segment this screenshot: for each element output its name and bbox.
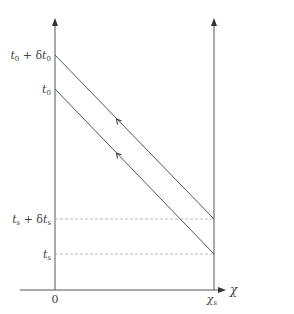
label-t0-plus-delta: t0 + δt0 (10, 49, 51, 63)
label-chi-s: χs (206, 293, 218, 307)
label-ts-plus-delta: ts + δts (12, 213, 51, 227)
label-origin: 0 (52, 293, 59, 306)
label-ts: ts (43, 248, 51, 262)
light-ray-upper (55, 55, 214, 219)
spacetime-diagram: t0 + δt0 t0 ts + δts ts 0 χs χ (0, 0, 294, 314)
light-ray-lower (55, 89, 214, 254)
label-chi-axis: χ (229, 283, 238, 297)
label-t0: t0 (42, 83, 51, 97)
arrow-icon-upper-ray (117, 119, 122, 125)
